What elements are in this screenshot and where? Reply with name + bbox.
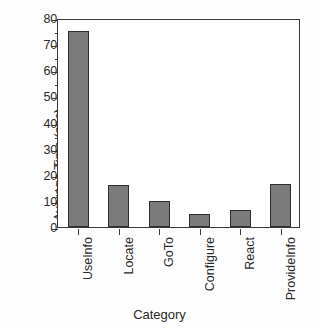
x-tick-goto (159, 229, 160, 235)
x-tick-label-locate: Locate (123, 237, 136, 275)
y-minor-tick-55 (55, 85, 59, 86)
y-minor-tick-5 (55, 216, 59, 217)
x-tick-provideinfo (281, 229, 282, 235)
x-tick-locate (119, 229, 120, 235)
y-minor-tick-25 (55, 164, 59, 165)
bar-locate (108, 185, 129, 227)
x-tick-label-goto: GoTo (163, 237, 176, 267)
y-minor-tick-45 (55, 111, 59, 112)
plot-area (57, 19, 300, 228)
bar-react (230, 210, 251, 227)
y-tick-label-70: 70 (43, 39, 57, 52)
y-tick-label-30: 30 (43, 144, 57, 157)
bar-configure (189, 214, 210, 227)
x-tick-label-provideinfo: ProvideInfo (285, 237, 298, 300)
y-tick-label-40: 40 (43, 118, 57, 131)
x-tick-label-configure: Configure (204, 237, 217, 291)
y-tick-label-60: 60 (43, 65, 57, 78)
x-tick-label-react: React (244, 237, 257, 270)
y-tick-label-10: 10 (43, 196, 57, 209)
x-tick-useinfo (78, 229, 79, 235)
y-tick-label-80: 80 (43, 13, 57, 26)
bar-useinfo (68, 31, 89, 227)
x-axis-title: Category (0, 307, 319, 322)
y-minor-tick-75 (55, 33, 59, 34)
bar-provideinfo (270, 184, 291, 227)
y-minor-tick-15 (55, 190, 59, 191)
bar-chart-figure: Average Time (sec) 01020304050607080 Use… (0, 0, 319, 330)
y-tick-label-20: 20 (43, 170, 57, 183)
x-tick-label-useinfo: UseInfo (82, 237, 95, 280)
y-tick-label-50: 50 (43, 91, 57, 104)
y-tick-label-0: 0 (50, 222, 57, 235)
bar-goto (149, 201, 170, 227)
y-minor-tick-35 (55, 138, 59, 139)
x-tick-react (240, 229, 241, 235)
x-tick-configure (200, 229, 201, 235)
y-minor-tick-65 (55, 59, 59, 60)
